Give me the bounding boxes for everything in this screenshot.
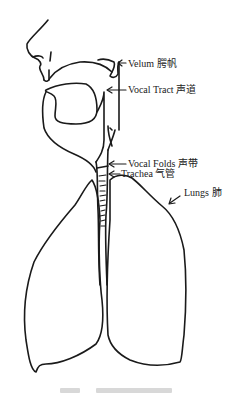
label-velum: Velum 腭帆 (128, 58, 177, 69)
label-lungs: Lungs 肺 (184, 187, 222, 198)
label-trachea: Trachea 气管 (121, 168, 175, 179)
label-vocal-tract: Vocal Tract 声道 (128, 84, 196, 95)
arrow-vocal-tract (107, 87, 126, 93)
trachea-shape (96, 150, 108, 285)
vocal-anatomy-diagram: Velum 腭帆 Vocal Tract 声道 Vocal Folds 声带 T… (0, 0, 233, 396)
arrow-lungs (169, 196, 180, 204)
label-arrows (107, 60, 180, 204)
face-profile (27, 20, 112, 81)
anatomy-drawing (0, 0, 233, 396)
arrow-vocal-folds (109, 161, 126, 167)
vocal-tract-shape (43, 83, 115, 172)
